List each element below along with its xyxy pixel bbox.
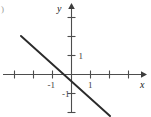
line-series-y-equals-negative-x bbox=[21, 36, 110, 116]
x-tick-label-negative-one: -1 bbox=[48, 80, 56, 90]
y-tick-label-one: 1 bbox=[79, 51, 84, 61]
x-tick-label-one: 1 bbox=[88, 80, 93, 90]
coordinate-plane-plot: y x -1 1 1 -1 ) bbox=[0, 0, 151, 117]
y-axis-arrow-icon bbox=[68, 3, 75, 9]
x-axis-arrow-icon bbox=[141, 71, 147, 78]
y-tick-label-negative-one: -1 bbox=[62, 89, 70, 99]
figure-tag: ) bbox=[1, 4, 4, 14]
figure-container: y x -1 1 1 -1 ) bbox=[0, 0, 151, 117]
x-axis bbox=[3, 71, 147, 78]
x-axis-label: x bbox=[139, 79, 145, 90]
y-axis-label: y bbox=[56, 3, 62, 14]
